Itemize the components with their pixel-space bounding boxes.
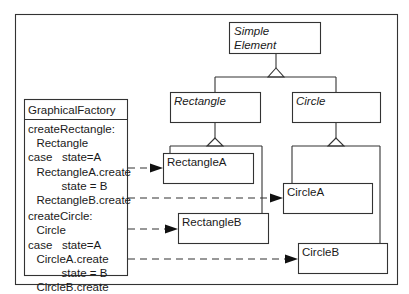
factory-operation-line: state = B (62, 180, 108, 192)
factory-operation-line: state = B (62, 267, 108, 279)
factory-operation-line: RectangleB.create (36, 194, 131, 206)
class-diagram: Simple Element Rectangle Circle Rectangl… (0, 0, 409, 294)
factory-operation-line: case state=A (28, 239, 102, 251)
class-label: Element (234, 39, 277, 51)
class-label: Circle (296, 95, 325, 107)
factory-operation-line: CircleB.create (36, 281, 108, 293)
class-rectangle-b[interactable]: RectangleB (179, 214, 269, 244)
factory-operation-line: createRectangle: (28, 123, 115, 135)
factory-operation-line: createCircle: (28, 210, 93, 222)
class-label: CircleA (287, 186, 324, 198)
class-circle[interactable]: Circle (293, 93, 381, 123)
class-rectangle[interactable]: Rectangle (171, 93, 261, 123)
class-label: CircleB (302, 246, 339, 258)
class-label: RectangleA (167, 156, 227, 168)
class-circle-a[interactable]: CircleA (284, 184, 373, 214)
class-simple-element[interactable]: Simple Element (230, 23, 321, 54)
class-label: Rectangle (174, 95, 226, 107)
class-title: GraphicalFactory (28, 104, 116, 116)
factory-operation-line: Circle (36, 224, 65, 236)
factory-operation-line: RectangleA.create (36, 166, 131, 178)
class-rectangle-a[interactable]: RectangleA (164, 154, 254, 184)
class-circle-b[interactable]: CircleB (299, 244, 388, 274)
factory-operation-line: CircleA.create (36, 253, 108, 265)
factory-operation-line: Rectangle (36, 137, 88, 149)
class-graphical-factory[interactable]: GraphicalFactory createRectangle:Rectang… (25, 100, 132, 294)
class-label: Simple (234, 25, 269, 37)
factory-operation-line: case state=A (28, 151, 102, 163)
class-label: RectangleB (182, 216, 242, 228)
